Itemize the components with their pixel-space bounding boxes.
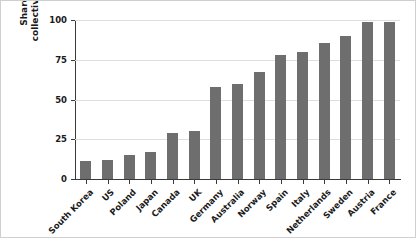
bar xyxy=(362,22,373,179)
y-tick-label-100: 100 xyxy=(27,16,67,24)
bar xyxy=(275,55,286,179)
x-tick xyxy=(194,180,195,184)
bar xyxy=(145,152,156,179)
y-tick-100 xyxy=(71,20,75,21)
x-tick xyxy=(303,180,304,184)
bar xyxy=(124,155,135,179)
bar xyxy=(80,161,91,179)
y-tick-75 xyxy=(71,60,75,61)
bar xyxy=(210,87,221,179)
y-tick-label-25: 25 xyxy=(27,135,67,143)
chart-figure: Share of employees covered by collective… xyxy=(0,0,416,238)
bar xyxy=(102,160,113,179)
x-tick xyxy=(324,180,325,184)
x-tick xyxy=(368,180,369,184)
x-tick xyxy=(259,180,260,184)
y-tick-25 xyxy=(71,139,75,140)
x-tick xyxy=(389,180,390,184)
x-tick xyxy=(238,180,239,184)
gridline-y-100 xyxy=(75,20,400,21)
bar xyxy=(297,52,308,179)
x-tick-label: Spain xyxy=(264,187,290,213)
bar xyxy=(384,22,395,179)
x-tick xyxy=(346,180,347,184)
x-tick xyxy=(86,180,87,184)
bar xyxy=(340,36,351,179)
bar xyxy=(167,133,178,179)
x-tick xyxy=(151,180,152,184)
x-tick xyxy=(173,180,174,184)
bar xyxy=(319,43,330,179)
y-tick-0 xyxy=(71,179,75,180)
x-tick xyxy=(216,180,217,184)
x-tick xyxy=(108,180,109,184)
y-tick-50 xyxy=(71,100,75,101)
x-tick xyxy=(281,180,282,184)
y-tick-label-75: 75 xyxy=(27,56,67,64)
bar xyxy=(189,131,200,179)
y-tick-label-50: 50 xyxy=(27,96,67,104)
x-tick xyxy=(129,180,130,184)
x-tick-label: South Korea xyxy=(46,187,95,236)
x-tick-label: UK xyxy=(187,187,204,204)
x-tick-label: US xyxy=(100,187,116,203)
bar xyxy=(232,84,243,179)
bar xyxy=(254,72,265,179)
y-tick-label-0: 0 xyxy=(27,175,67,183)
